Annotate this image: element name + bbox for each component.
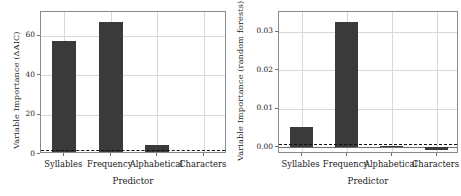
plot-area — [40, 11, 226, 153]
x-axis-tick-mark — [63, 153, 64, 156]
x-axis-tick-mark — [301, 153, 302, 156]
y-axis-tick-mark — [37, 114, 40, 115]
chart-panel-random-forests: Variable Importance (random forests) 0.0… — [231, 0, 461, 196]
bar — [99, 22, 123, 153]
chart-panel-aic: Variable Importance (ΔAIC) 0204060 Sylla… — [0, 0, 231, 196]
x-axis-title: Predictor — [278, 176, 458, 186]
bar — [425, 147, 448, 150]
y-axis-title: Variable Importance (random forests) — [235, 1, 245, 161]
y-axis-tick-mark — [275, 146, 278, 147]
y-axis-tick-label: 40 — [0, 70, 35, 79]
x-axis-tick-label: Characters — [396, 159, 461, 169]
y-axis-tick-mark — [37, 153, 40, 154]
grid-line — [437, 12, 438, 152]
grid-line — [279, 32, 457, 33]
figure-two-panel-bar-charts: Variable Importance (ΔAIC) 0204060 Sylla… — [0, 0, 461, 196]
x-axis-tick-mark — [436, 153, 437, 156]
threshold-line — [279, 144, 457, 145]
y-axis-tick-mark — [275, 69, 278, 70]
y-axis-tick-label: 60 — [0, 30, 35, 39]
x-axis-tick-mark — [346, 153, 347, 156]
x-axis-tick-mark — [391, 153, 392, 156]
threshold-line — [41, 150, 225, 151]
grid-line — [157, 12, 158, 152]
grid-line — [392, 12, 393, 152]
y-axis-tick-label: 0.03 — [236, 26, 273, 35]
plot-area — [278, 11, 458, 153]
grid-line — [279, 70, 457, 71]
x-axis-tick-mark — [110, 153, 111, 156]
y-axis-tick-mark — [275, 108, 278, 109]
bar — [52, 41, 76, 153]
x-axis-tick-mark — [203, 153, 204, 156]
x-axis-tick-mark — [156, 153, 157, 156]
y-axis-tick-mark — [37, 74, 40, 75]
y-axis-tick-label: 0.01 — [236, 103, 273, 112]
x-axis-title: Predictor — [40, 176, 226, 186]
bar — [380, 146, 403, 147]
grid-line — [41, 36, 225, 37]
y-axis-tick-label: 0.02 — [236, 65, 273, 74]
y-axis-title: Variable Importance (ΔAIC) — [11, 31, 21, 149]
y-axis-tick-mark — [37, 35, 40, 36]
bar — [335, 22, 358, 147]
y-axis-tick-label: 0.00 — [236, 142, 273, 151]
grid-line — [204, 12, 205, 152]
grid-line — [279, 109, 457, 110]
y-axis-tick-label: 0 — [0, 149, 35, 158]
y-axis-tick-mark — [275, 31, 278, 32]
y-axis-tick-label: 20 — [0, 109, 35, 118]
